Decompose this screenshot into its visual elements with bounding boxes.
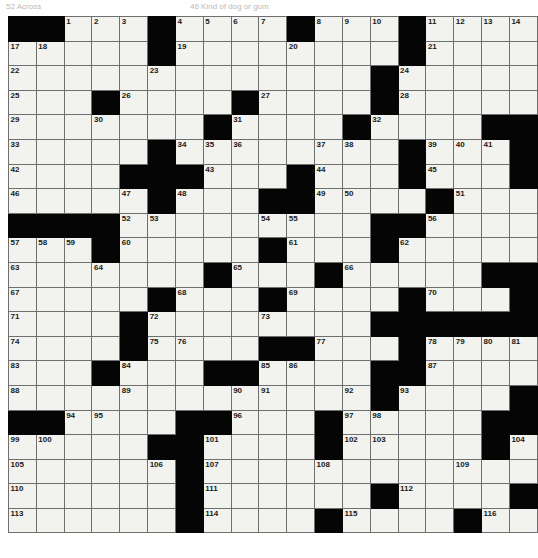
crossword-cell[interactable] <box>203 41 231 66</box>
crossword-cell[interactable]: 3 <box>120 17 148 42</box>
crossword-cell[interactable] <box>482 90 510 115</box>
crossword-cell[interactable] <box>370 459 398 484</box>
crossword-cell[interactable]: 49 <box>315 189 343 214</box>
crossword-cell[interactable] <box>315 238 343 263</box>
crossword-cell[interactable]: 18 <box>36 41 64 66</box>
crossword-cell[interactable] <box>287 262 315 287</box>
crossword-cell[interactable] <box>64 484 92 509</box>
crossword-cell[interactable] <box>287 139 315 164</box>
crossword-cell[interactable] <box>454 287 482 312</box>
crossword-cell[interactable]: 36 <box>231 139 259 164</box>
crossword-cell[interactable]: 112 <box>398 484 426 509</box>
crossword-cell[interactable] <box>482 385 510 410</box>
crossword-cell[interactable]: 73 <box>259 312 287 337</box>
crossword-cell[interactable] <box>92 336 120 361</box>
crossword-cell[interactable] <box>482 189 510 214</box>
crossword-cell[interactable] <box>342 213 370 238</box>
crossword-cell[interactable] <box>342 361 370 386</box>
crossword-cell[interactable] <box>175 115 203 140</box>
crossword-cell[interactable] <box>175 262 203 287</box>
crossword-cell[interactable]: 95 <box>92 410 120 435</box>
crossword-cell[interactable] <box>203 336 231 361</box>
crossword-cell[interactable]: 29 <box>9 115 37 140</box>
crossword-cell[interactable] <box>64 41 92 66</box>
crossword-cell[interactable] <box>92 484 120 509</box>
crossword-cell[interactable]: 106 <box>148 459 176 484</box>
crossword-cell[interactable]: 46 <box>9 189 37 214</box>
crossword-cell[interactable] <box>148 238 176 263</box>
crossword-cell[interactable] <box>231 312 259 337</box>
crossword-cell[interactable] <box>315 115 343 140</box>
crossword-cell[interactable] <box>64 312 92 337</box>
crossword-cell[interactable] <box>370 139 398 164</box>
crossword-cell[interactable]: 34 <box>175 139 203 164</box>
crossword-cell[interactable] <box>454 90 482 115</box>
crossword-cell[interactable]: 31 <box>231 115 259 140</box>
crossword-cell[interactable]: 4 <box>175 17 203 42</box>
crossword-cell[interactable] <box>287 312 315 337</box>
crossword-cell[interactable] <box>64 336 92 361</box>
crossword-cell[interactable] <box>315 213 343 238</box>
crossword-cell[interactable] <box>370 164 398 189</box>
crossword-cell[interactable]: 86 <box>287 361 315 386</box>
crossword-cell[interactable] <box>231 435 259 460</box>
crossword-cell[interactable]: 80 <box>482 336 510 361</box>
crossword-cell[interactable] <box>148 385 176 410</box>
crossword-cell[interactable] <box>342 238 370 263</box>
crossword-cell[interactable]: 28 <box>398 90 426 115</box>
crossword-cell[interactable] <box>36 66 64 91</box>
crossword-cell[interactable]: 111 <box>203 484 231 509</box>
crossword-cell[interactable]: 100 <box>36 435 64 460</box>
crossword-cell[interactable] <box>148 90 176 115</box>
crossword-cell[interactable]: 71 <box>9 312 37 337</box>
crossword-cell[interactable] <box>287 66 315 91</box>
crossword-cell[interactable] <box>509 508 537 533</box>
crossword-cell[interactable] <box>231 41 259 66</box>
crossword-cell[interactable] <box>342 336 370 361</box>
crossword-cell[interactable] <box>36 508 64 533</box>
crossword-cell[interactable] <box>231 66 259 91</box>
crossword-cell[interactable] <box>509 238 537 263</box>
crossword-cell[interactable]: 89 <box>120 385 148 410</box>
crossword-cell[interactable] <box>259 484 287 509</box>
crossword-cell[interactable] <box>175 385 203 410</box>
crossword-cell[interactable]: 35 <box>203 139 231 164</box>
crossword-cell[interactable] <box>36 139 64 164</box>
crossword-cell[interactable] <box>175 213 203 238</box>
crossword-cell[interactable]: 84 <box>120 361 148 386</box>
crossword-grid[interactable]: 1234567891011121314171819202122232425262… <box>8 16 538 533</box>
crossword-cell[interactable] <box>454 115 482 140</box>
crossword-cell[interactable]: 26 <box>120 90 148 115</box>
crossword-cell[interactable] <box>148 115 176 140</box>
crossword-cell[interactable]: 58 <box>36 238 64 263</box>
crossword-cell[interactable] <box>426 410 454 435</box>
crossword-cell[interactable]: 62 <box>398 238 426 263</box>
crossword-cell[interactable]: 43 <box>203 164 231 189</box>
crossword-cell[interactable] <box>287 459 315 484</box>
crossword-cell[interactable] <box>120 139 148 164</box>
crossword-cell[interactable]: 56 <box>426 213 454 238</box>
crossword-cell[interactable] <box>231 336 259 361</box>
crossword-cell[interactable] <box>398 508 426 533</box>
crossword-cell[interactable] <box>64 459 92 484</box>
crossword-cell[interactable] <box>315 287 343 312</box>
crossword-cell[interactable]: 65 <box>231 262 259 287</box>
crossword-cell[interactable] <box>454 66 482 91</box>
crossword-cell[interactable]: 7 <box>259 17 287 42</box>
crossword-cell[interactable] <box>259 459 287 484</box>
crossword-cell[interactable] <box>370 262 398 287</box>
crossword-cell[interactable] <box>148 508 176 533</box>
crossword-cell[interactable]: 14 <box>509 17 537 42</box>
crossword-cell[interactable] <box>120 115 148 140</box>
crossword-cell[interactable]: 17 <box>9 41 37 66</box>
crossword-cell[interactable] <box>287 90 315 115</box>
crossword-cell[interactable]: 67 <box>9 287 37 312</box>
crossword-cell[interactable] <box>92 508 120 533</box>
crossword-cell[interactable] <box>454 164 482 189</box>
crossword-cell[interactable] <box>315 41 343 66</box>
crossword-cell[interactable] <box>64 385 92 410</box>
crossword-cell[interactable] <box>315 361 343 386</box>
crossword-cell[interactable] <box>259 262 287 287</box>
crossword-cell[interactable] <box>175 66 203 91</box>
crossword-cell[interactable]: 97 <box>342 410 370 435</box>
